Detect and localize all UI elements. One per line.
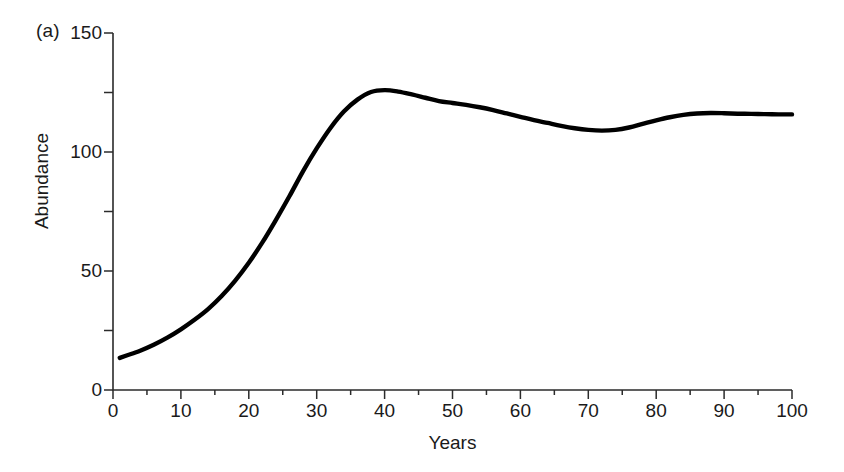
- x-tick-label: 70: [578, 400, 599, 422]
- x-tick-label: 0: [108, 400, 119, 422]
- y-tick-label: 0: [40, 379, 102, 401]
- y-minor-tick-marks: [104, 93, 113, 331]
- x-tick-label: 20: [238, 400, 259, 422]
- x-tick-label: 40: [374, 400, 395, 422]
- x-tick-label: 100: [776, 400, 808, 422]
- figure-panel-a: (a) Abundance Years 050100150 0102030405…: [0, 0, 844, 472]
- x-tick-label: 80: [646, 400, 667, 422]
- axis-lines: [113, 33, 792, 390]
- abundance-curve: [120, 90, 792, 358]
- y-tick-label: 50: [40, 260, 102, 282]
- y-tick-label: 150: [40, 22, 102, 44]
- x-tick-label: 60: [510, 400, 531, 422]
- y-tick-label: 100: [40, 141, 102, 163]
- axes-group: [113, 33, 792, 390]
- x-tick-label: 90: [714, 400, 735, 422]
- x-tick-label: 50: [442, 400, 463, 422]
- x-tick-label: 10: [170, 400, 191, 422]
- x-tick-label: 30: [306, 400, 327, 422]
